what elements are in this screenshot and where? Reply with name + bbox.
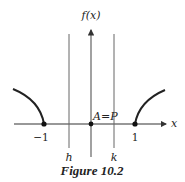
y-axis-label: f(x)	[81, 9, 101, 22]
point-annotation: A=P	[92, 110, 118, 123]
point-one	[132, 121, 137, 126]
tick-label-one: 1	[132, 131, 139, 143]
figure-diagram: f(x) x −1 1 h k A=P Figure 10.2	[0, 0, 185, 182]
tick-label-neg-one: −1	[33, 131, 48, 143]
x-axis-label: x	[171, 117, 178, 130]
figure-caption: Figure 10.2	[60, 163, 124, 178]
right-curve	[135, 90, 165, 124]
left-curve	[13, 89, 44, 124]
point-neg-one	[41, 121, 46, 126]
